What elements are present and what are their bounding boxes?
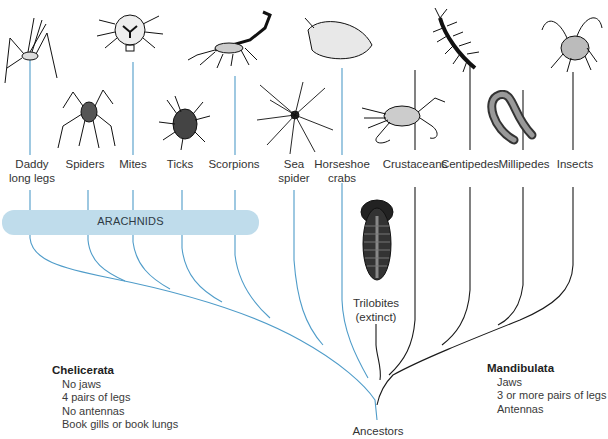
trait-item: No jaws: [52, 378, 178, 392]
taxon-label-crustaceans: Crustaceans: [383, 157, 448, 171]
label-line: Daddy: [9, 157, 55, 171]
trait-item: Jaws: [487, 376, 606, 390]
scorpion-illustration: [185, 10, 280, 70]
crustacean-illustration: [360, 88, 450, 148]
arachnids-group-bar: ARACHNIDS: [2, 210, 259, 235]
trait-item: Book gills or book lungs: [52, 418, 178, 432]
spider-illustration: [55, 88, 125, 153]
taxon-label-mites: Mites: [119, 157, 146, 171]
centipede-illustration: [425, 6, 485, 76]
label-line: Sea: [278, 157, 309, 171]
taxon-label-trilobites: Trilobites (extinct): [353, 296, 399, 324]
phylogenetic-tree-diagram: Daddy long legs Spiders Mites Ticks Scor…: [0, 0, 608, 439]
mite-illustration: [95, 6, 165, 71]
label-line: crabs: [314, 171, 370, 185]
taxon-label-millipedes: Millipedes: [498, 157, 549, 171]
taxon-label-daddy-long-legs: Daddy long legs: [9, 157, 55, 185]
label-line: Crustaceans: [383, 157, 448, 171]
label-line: Horseshoe: [314, 157, 370, 171]
horseshoe-crab-illustration: [300, 10, 380, 65]
label-line: spider: [278, 171, 309, 185]
label-line: Trilobites: [353, 296, 399, 310]
taxon-label-sea-spider: Sea spider: [278, 157, 309, 185]
mandibulata-title: Mandibulata: [487, 362, 606, 376]
trilobite-illustration: [355, 196, 400, 286]
label-line: Mites: [119, 157, 146, 171]
trait-item: 3 or more pairs of legs: [487, 389, 606, 403]
root-label-ancestors: Ancestors: [352, 424, 403, 438]
label-line: Millipedes: [498, 157, 549, 171]
taxon-label-spiders: Spiders: [66, 157, 105, 171]
chelicerata-traits: Chelicerata No jaws 4 pairs of legs No a…: [52, 364, 178, 432]
taxon-label-centipedes: Centipedes: [441, 157, 499, 171]
millipede-illustration: [484, 90, 544, 150]
trait-item: No antennas: [52, 405, 178, 419]
insect-illustration: [537, 10, 607, 75]
taxon-label-horseshoe-crabs: Horseshoe crabs: [314, 157, 370, 185]
label-line: long legs: [9, 171, 55, 185]
trait-item: Antennas: [487, 403, 606, 417]
label-line: Insects: [557, 157, 593, 171]
label-line: Ticks: [167, 157, 193, 171]
label-line: Spiders: [66, 157, 105, 171]
label-line: Scorpions: [208, 157, 259, 171]
mandibulata-traits: Mandibulata Jaws 3 or more pairs of legs…: [487, 362, 606, 416]
label-line: Centipedes: [441, 157, 499, 171]
label-line: (extinct): [353, 310, 399, 324]
taxon-label-ticks: Ticks: [167, 157, 193, 171]
daddy-long-legs-illustration: [2, 8, 62, 88]
chelicerata-title: Chelicerata: [52, 364, 178, 378]
taxon-label-insects: Insects: [557, 157, 593, 171]
arachnids-label: ARACHNIDS: [2, 215, 259, 227]
trait-item: 4 pairs of legs: [52, 391, 178, 405]
tick-illustration: [155, 92, 215, 152]
sea-spider-illustration: [255, 80, 335, 155]
taxon-label-scorpions: Scorpions: [208, 157, 259, 171]
